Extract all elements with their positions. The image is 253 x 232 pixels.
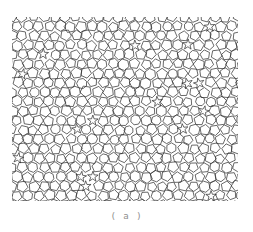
figure-caption-label: ( a ) [0, 211, 253, 221]
micrograph-pattern [12, 17, 238, 201]
figure-page: ( a ) [0, 0, 253, 232]
cell-network-svg [12, 17, 238, 201]
